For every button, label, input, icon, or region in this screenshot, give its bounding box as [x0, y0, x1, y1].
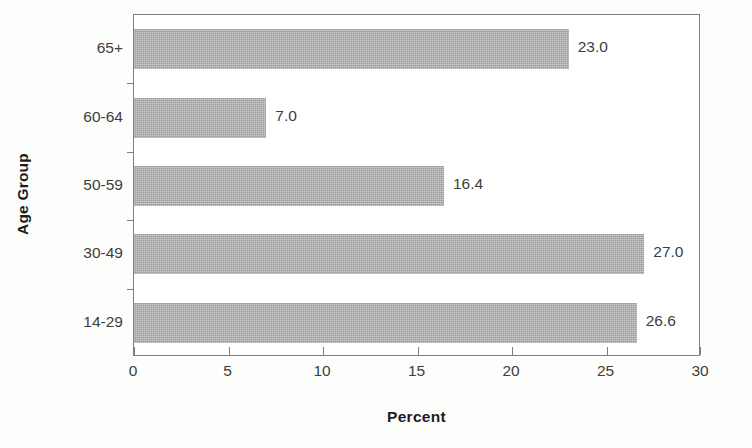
y-axis-tick-label: 30-49: [13, 244, 123, 262]
y-axis-tick-labels: 65+60-6450-5930-4914-29: [13, 14, 123, 356]
x-axis-title: Percent: [133, 408, 700, 426]
x-axis-tick-label: 15: [387, 362, 447, 380]
x-axis-tick-mark: [700, 347, 701, 355]
x-axis-tick-label: 25: [576, 362, 636, 380]
x-axis-tick-label: 20: [481, 362, 541, 380]
y-axis-tick-label: 50-59: [13, 176, 123, 194]
y-axis-tick-label: 65+: [13, 39, 123, 57]
y-axis-tick-label: 60-64: [13, 108, 123, 126]
x-axis-tick-label: 30: [670, 362, 730, 380]
x-axis-tick-label: 5: [198, 362, 258, 380]
x-axis-tick-labels: 051015202530: [133, 0, 700, 448]
x-axis-tick-label: 10: [292, 362, 352, 380]
x-axis-tick-label: 0: [103, 362, 163, 380]
y-axis-tick-label: 14-29: [13, 313, 123, 331]
bar-chart: Age Group 65+60-6450-5930-4914-29 23.07.…: [0, 0, 752, 448]
